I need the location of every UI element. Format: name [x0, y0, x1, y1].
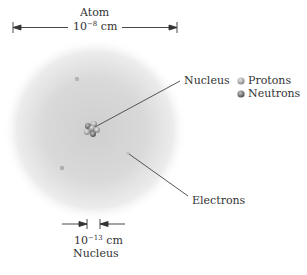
nucleus-size-caption: Nucleus	[73, 248, 119, 260]
atom-size-base: 10	[73, 20, 87, 33]
nucleus-size-base: 10	[74, 234, 88, 247]
electrons-label: Electrons	[192, 195, 245, 207]
atom-size-label: 10−8 cm	[73, 21, 117, 33]
atom-diagram	[0, 0, 307, 275]
protons-legend-dot	[237, 77, 244, 84]
nucleus-size-exponent: −13	[88, 234, 103, 242]
nucleus-size-label: 10−13 cm	[74, 235, 123, 247]
atom-title: Atom	[80, 7, 109, 19]
neutrons-legend-dot	[237, 90, 244, 97]
protons-legend-label: Protons	[248, 75, 291, 87]
atom-size-exponent: −8	[87, 20, 97, 28]
atom-size-unit: cm	[101, 20, 118, 33]
nucleus-size-unit: cm	[106, 234, 123, 247]
electron-dot	[75, 77, 79, 81]
neutrons-legend-label: Neutrons	[248, 88, 300, 100]
nucleus-label: Nucleus	[184, 75, 230, 87]
electron-dot	[60, 166, 64, 170]
